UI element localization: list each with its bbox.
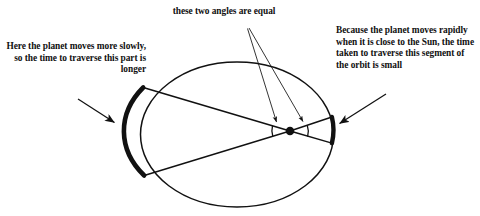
leader-arrow-aphelion <box>78 99 115 123</box>
sun-focus-dot <box>286 127 295 136</box>
diagram-canvas: Here the planet moves more slowly, so th… <box>0 0 480 216</box>
annotation-perihelion-text: Because the planet moves rapidly when it… <box>336 25 476 71</box>
leader-arrow-perihelion <box>340 94 387 124</box>
annotation-equal-angles-text: these two angles are equal <box>144 6 304 18</box>
leader-arrow-angle-right <box>249 28 303 122</box>
radius-line-aphelion-bottom <box>144 131 290 176</box>
orbit-ellipse <box>141 62 334 207</box>
thick-arc-perihelion <box>332 117 334 143</box>
leader-arrow-angle-left <box>248 29 277 123</box>
annotation-aphelion-text: Here the planet moves more slowly, so th… <box>4 41 146 76</box>
angle-arc-right <box>307 125 308 136</box>
angle-arc-left <box>272 126 273 137</box>
radius-line-perihelion-bottom <box>290 131 332 143</box>
radius-line-perihelion-top <box>290 117 332 131</box>
